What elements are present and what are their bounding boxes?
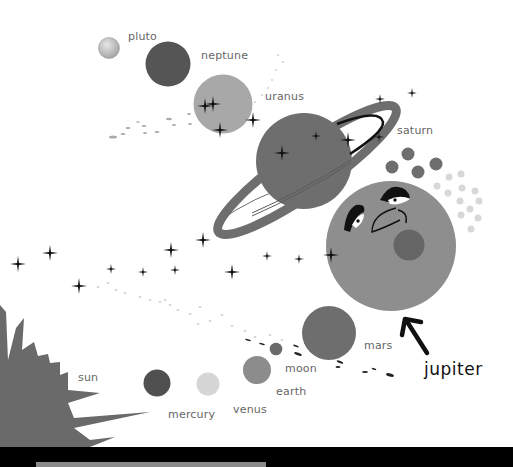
planet-jupiter bbox=[326, 181, 456, 311]
bottom-strip bbox=[36, 462, 266, 467]
label-neptune: neptune bbox=[201, 49, 248, 62]
label-pluto: pluto bbox=[128, 30, 157, 43]
label-moon: moon bbox=[285, 362, 317, 375]
label-earth: earth bbox=[276, 385, 306, 398]
label-saturn: saturn bbox=[397, 124, 433, 137]
planet-mercury bbox=[144, 370, 171, 397]
planet-moon bbox=[270, 343, 283, 356]
label-uranus: uranus bbox=[265, 90, 304, 103]
planet-neptune bbox=[146, 42, 191, 87]
label-sun: sun bbox=[78, 371, 98, 384]
planet-earth bbox=[243, 356, 271, 384]
planet-uranus bbox=[194, 75, 253, 134]
dust-trail-upper bbox=[109, 113, 210, 138]
planet-mars bbox=[302, 306, 356, 360]
label-jupiter: jupiter bbox=[424, 359, 483, 379]
label-mars: mars bbox=[364, 339, 393, 352]
label-mercury: mercury bbox=[168, 408, 215, 421]
saturn-moons-dark bbox=[386, 148, 443, 179]
sun-shape bbox=[0, 305, 150, 447]
dust-trail-lower bbox=[97, 282, 284, 340]
solar-system-illustration bbox=[0, 0, 513, 467]
planet-pluto bbox=[99, 38, 120, 59]
label-venus: venus bbox=[233, 403, 267, 416]
arrow-icon bbox=[402, 319, 427, 353]
planet-venus bbox=[197, 373, 220, 396]
